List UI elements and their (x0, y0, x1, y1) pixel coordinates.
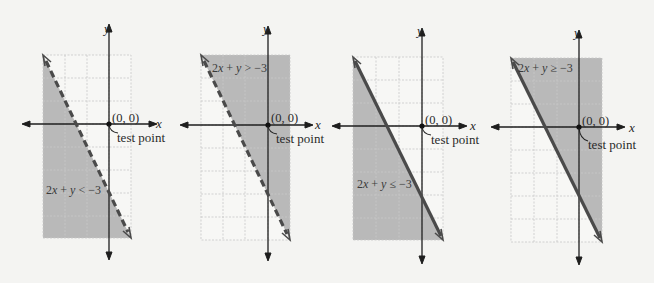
test-point-label: test point (276, 132, 324, 145)
graph-panel-c: y x (0, 0) test point 2x + y ≤ −3 (325, 0, 490, 283)
graph-panel-d: y x (0, 0) test point 2x + y ≥ −3 (490, 0, 654, 283)
inequality-label: 2x + y < −3 (46, 184, 101, 196)
inequality-label: 2x + y ≥ −3 (518, 62, 573, 74)
origin-label: (0, 0) (582, 115, 609, 128)
y-axis-label: y (574, 26, 580, 39)
test-point-label: test point (431, 133, 479, 146)
y-axis-label: y (104, 22, 110, 35)
y-axis-label: y (263, 22, 269, 35)
origin-label: (0, 0) (425, 114, 452, 127)
inequality-label: 2x + y ≤ −3 (357, 178, 412, 190)
test-point-label: test point (117, 131, 165, 144)
origin-label: (0, 0) (271, 112, 298, 125)
graph-panel-a: y x (0, 0) test point 2x + y < −3 (0, 0, 165, 283)
x-axis-label: x (470, 119, 476, 132)
test-point-label: test point (588, 138, 636, 151)
x-axis-label: x (315, 118, 321, 131)
origin-label: (0, 0) (112, 112, 139, 125)
inequality-label: 2x + y > −3 (212, 62, 267, 74)
x-axis-label: x (156, 117, 162, 130)
inequality-graphs-figure: y x (0, 0) test point 2x + y < −3 (0, 0, 654, 283)
graph-panel-b: y x (0, 0) test point 2x + y > −3 (165, 0, 325, 283)
y-axis-label: y (417, 24, 423, 37)
x-axis-label: x (629, 121, 635, 134)
